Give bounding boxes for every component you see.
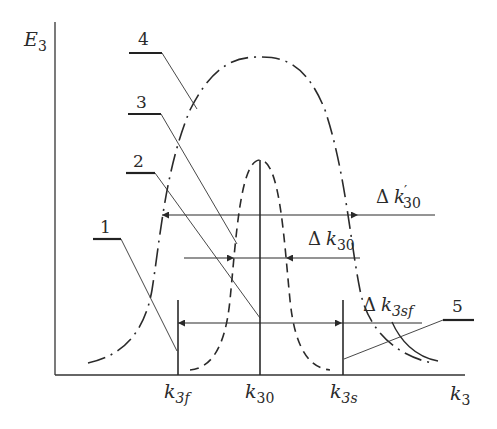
callout-number-2: 2 xyxy=(133,151,144,171)
spectral-diagram: E3 k3 k3f k30 k3s Δk′30 Δk30 Δk3sf 1 2 3… xyxy=(0,0,497,429)
callout-number-3: 3 xyxy=(136,92,147,112)
tick-label-k30: k30 xyxy=(245,380,274,406)
interval-label-delta-k30-prime: Δk′30 xyxy=(376,183,421,211)
y-axis-label: E3 xyxy=(23,28,47,54)
callout-number-5: 5 xyxy=(452,296,463,316)
callout-number-4: 4 xyxy=(138,29,149,49)
interval-label-delta-k30: Δk30 xyxy=(308,228,355,253)
x-axis-label: k3 xyxy=(450,382,470,408)
interval-label-delta-k3sf: Δk3sf xyxy=(363,294,416,319)
callout-number-1: 1 xyxy=(100,217,111,237)
right-tail-curve xyxy=(392,322,438,361)
tick-label-k3f: k3f xyxy=(164,380,192,406)
tick-label-k3s: k3s xyxy=(330,380,358,406)
